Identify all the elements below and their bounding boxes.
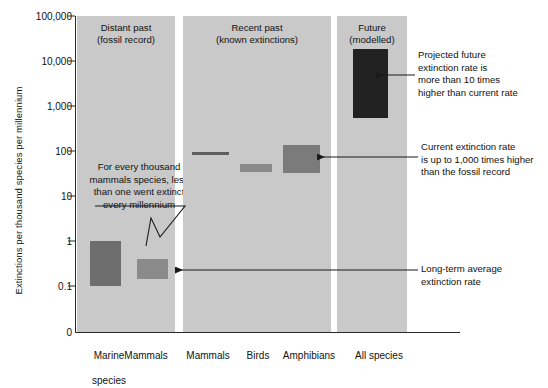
- current-rate-note-line3: than the fossil record: [421, 166, 510, 177]
- panel-distant-past-title-line2: (fossil record): [97, 34, 155, 45]
- current-rate-note: Current extinction rate is up to 1,000 t…: [421, 141, 548, 179]
- panel-distant-past-title: Distant past (fossil record): [77, 22, 175, 47]
- bar-all-species-future: [353, 49, 388, 118]
- panel-recent-past-title-line2: (known extinctions): [216, 34, 298, 45]
- current-rate-note-line1: Current extinction rate: [421, 141, 515, 152]
- projected-future-note: Projected future extinction rate is more…: [418, 49, 546, 99]
- y-tick-0: 0: [66, 327, 72, 338]
- bar-birds-recent: [240, 164, 272, 172]
- projected-future-note-line3: more than 10 times: [418, 74, 500, 85]
- x-label-marine-species-line2: species: [92, 375, 126, 386]
- long-term-average-note: Long-term average extinction rate: [421, 263, 541, 288]
- tickmark-0-1: [68, 286, 75, 287]
- panel-distant-past: Distant past (fossil record) For every t…: [77, 16, 175, 332]
- panel-future-title-line1: Future: [358, 22, 386, 33]
- bar-mammals-fossil: [137, 259, 168, 279]
- x-label-amphibians: Amphibians: [270, 338, 348, 363]
- bar-mammals-recent: [192, 152, 229, 155]
- tickmark-100: [68, 151, 75, 152]
- fossil-mammals-note-line3: than one went extinct: [94, 186, 185, 197]
- x-label-all-species: All species: [341, 338, 417, 363]
- x-label-mammals-recent: Mammals: [175, 338, 241, 363]
- x-axis-line: [75, 332, 460, 333]
- tickmark-10000: [68, 61, 75, 62]
- panel-recent-past-title: Recent past (known extinctions): [183, 22, 331, 47]
- y-tick-100000: 100,000: [36, 11, 72, 22]
- x-label-mammals-fossil-text: Mammals: [124, 350, 167, 361]
- panel-distant-past-title-line1: Distant past: [101, 22, 152, 33]
- tickmark-1000: [68, 106, 75, 107]
- x-label-birds-text: Birds: [247, 350, 270, 361]
- fossil-mammals-note-line1: For every thousand: [98, 161, 181, 172]
- projected-future-note-line2: extinction rate is: [418, 62, 487, 73]
- long-term-average-note-line2: extinction rate: [421, 276, 481, 287]
- tickmark-100000: [68, 16, 75, 17]
- x-label-all-species-text: All species: [355, 350, 403, 361]
- tickmark-1: [68, 241, 75, 242]
- panel-future-title: Future (modelled): [337, 22, 407, 47]
- bar-amphibians-recent: [283, 145, 320, 173]
- projected-future-note-line1: Projected future: [418, 49, 486, 60]
- x-label-mammals-recent-text: Mammals: [186, 350, 229, 361]
- x-label-amphibians-text: Amphibians: [283, 350, 335, 361]
- panel-future-title-line2: (modelled): [349, 34, 394, 45]
- y-axis-tick-labels: 100,000 10,000 1,000 100 10 1 0.1 0: [18, 0, 72, 383]
- current-rate-note-line2: is up to 1,000 times higher: [421, 154, 534, 165]
- tickmark-10: [68, 196, 75, 197]
- fossil-mammals-note-line2: mammals species, less: [89, 174, 188, 185]
- fossil-mammals-note-line4: every millennium: [103, 199, 175, 210]
- bar-marine-species: [90, 241, 121, 286]
- panel-recent-past: Recent past (known extinctions): [183, 16, 331, 332]
- long-term-average-note-line1: Long-term average: [421, 263, 502, 274]
- projected-future-note-line4: higher than current rate: [418, 87, 518, 98]
- x-label-mammals-fossil: Mammals: [113, 338, 179, 363]
- panel-recent-past-title-line1: Recent past: [231, 22, 282, 33]
- panel-future: Future (modelled): [337, 16, 407, 332]
